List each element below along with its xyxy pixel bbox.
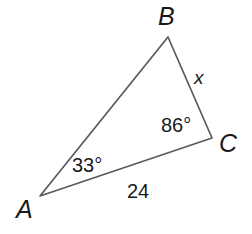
side-label-bc: x bbox=[194, 68, 204, 87]
angle-label-c: 86° bbox=[161, 115, 191, 135]
geometry-figure: B C A 86° 33° 24 x bbox=[0, 0, 252, 234]
triangle-shape bbox=[0, 0, 252, 234]
vertex-label-a: A bbox=[16, 197, 33, 222]
vertex-label-b: B bbox=[158, 4, 175, 29]
vertex-label-c: C bbox=[219, 131, 237, 156]
side-label-ac: 24 bbox=[127, 181, 149, 201]
angle-label-a: 33° bbox=[72, 155, 102, 175]
